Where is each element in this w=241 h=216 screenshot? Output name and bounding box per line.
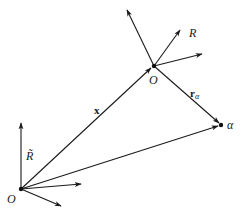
vector-origin-to-alpha	[21, 126, 218, 189]
lower-origin-label: O	[7, 192, 16, 206]
relative-vector-label: rα	[190, 87, 200, 101]
frames-diagram: O O R̃ R x rα α	[0, 0, 241, 216]
particle-alpha-label: α	[227, 118, 234, 132]
lower-axis-label: R̃	[25, 149, 34, 163]
relative-vector-label-sub: α	[195, 92, 200, 101]
upper-axis-label: R	[188, 26, 197, 40]
upper-frame-axis-up-left	[127, 10, 154, 66]
upper-origin-point	[152, 64, 156, 68]
particle-alpha-point	[219, 123, 223, 127]
position-vector-label: x	[94, 104, 100, 116]
position-vector-x	[21, 68, 151, 189]
lower-origin-point	[19, 187, 23, 191]
relative-vector-r-alpha	[154, 66, 219, 123]
upper-origin-label: O	[149, 73, 158, 87]
lower-frame-axis-down-right	[21, 189, 61, 206]
